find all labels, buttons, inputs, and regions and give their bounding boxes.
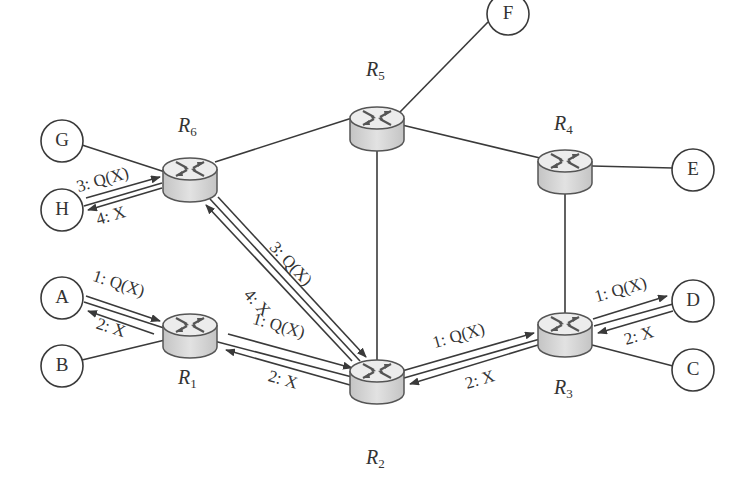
link-r6-r5 [215,118,352,162]
host-label-b: B [42,354,82,376]
router-r5 [350,107,404,151]
router-label-r6: R6 [178,114,197,140]
link-r5-f [400,22,488,112]
router-r3 [538,313,592,357]
host-label-f: F [488,2,528,24]
router-r1 [163,314,217,358]
router-r4 [538,150,592,194]
host-label-c: C [673,358,713,380]
host-label-a: A [42,286,82,308]
link-r4-e [592,166,673,168]
router-label-r4: R4 [554,112,573,138]
router-r2 [350,360,404,404]
host-label-d: D [673,289,713,311]
router-label-r3: R3 [554,376,573,402]
router-label-r1: R1 [178,366,197,392]
router-r6 [163,158,217,202]
router-label-r2: R2 [366,446,385,472]
router-label-r5: R5 [366,58,385,84]
link-r5-r4 [402,125,540,158]
link-b-r1 [82,340,165,360]
host-label-e: E [673,158,713,180]
host-label-h: H [42,198,82,220]
host-label-g: G [42,129,82,151]
